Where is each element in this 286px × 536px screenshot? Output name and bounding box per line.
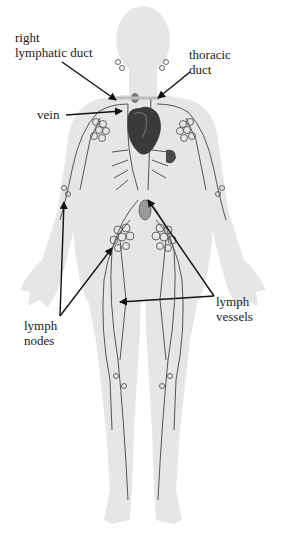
arrow-right-lymphatic-duct bbox=[62, 62, 116, 100]
label-right-lymphatic-duct: right lymphatic duct bbox=[15, 30, 93, 60]
cisterna-chyli bbox=[139, 200, 151, 220]
label-right-lymphatic-duct-line2: lymphatic duct bbox=[15, 45, 93, 60]
label-lymph-vessels-line1: lymph bbox=[216, 294, 253, 309]
label-lymph-nodes-line1: lymph bbox=[24, 318, 57, 333]
label-lymph-nodes: lymph nodes bbox=[24, 318, 57, 348]
label-thoracic-duct-line2: duct bbox=[189, 62, 231, 77]
label-vein: vein bbox=[37, 107, 59, 122]
body-silhouette bbox=[20, 6, 266, 524]
arrow-thoracic-duct bbox=[158, 72, 190, 98]
body-illustration bbox=[0, 0, 286, 536]
label-thoracic-duct-line1: thoracic bbox=[189, 47, 231, 62]
label-right-lymphatic-duct-line1: right bbox=[15, 30, 93, 45]
label-lymph-vessels: lymph vessels bbox=[216, 294, 253, 324]
label-lymph-vessels-line2: vessels bbox=[216, 309, 253, 324]
label-thoracic-duct: thoracic duct bbox=[189, 47, 231, 77]
label-lymph-nodes-line2: nodes bbox=[24, 333, 57, 348]
lymphatic-system-diagram: right lymphatic duct thoracic duct vein … bbox=[0, 0, 286, 536]
